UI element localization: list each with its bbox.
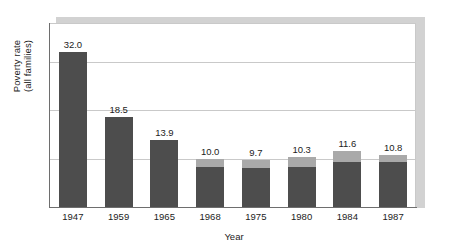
bar-value-label-1947: 32.0 [47,39,99,50]
bar-cap-1984 [333,151,361,162]
x-tick-label-1975: 1975 [233,211,279,222]
x-tick-label-1984: 1984 [325,211,371,222]
bar-group[interactable]: 32.0 [59,23,87,207]
bar-value-label-1975: 9.7 [230,147,282,158]
bar-value-label-1984: 11.6 [321,138,373,149]
bar-group[interactable]: 13.9 [150,23,178,207]
x-tick-label-1968: 1968 [187,211,233,222]
bar-group[interactable]: 10.3 [288,23,316,207]
x-tick-label-1987: 1987 [370,211,416,222]
bar-cap-1980 [288,157,316,167]
bar-cap-1968 [196,159,224,168]
bar-value-label-1968: 10.0 [184,146,236,157]
x-tick-label-1965: 1965 [142,211,188,222]
bar-1947[interactable] [59,52,87,207]
bar-group[interactable]: 18.5 [105,23,133,207]
x-tick-label-1980: 1980 [279,211,325,222]
bar-value-label-1965: 13.9 [138,127,190,138]
bar-value-label-1987: 10.8 [367,142,419,153]
bar-value-label-1959: 18.5 [93,104,145,115]
bar-1987[interactable] [379,155,407,207]
bar-group[interactable]: 10.0 [196,23,224,207]
bar-1959[interactable] [105,117,133,207]
bar-series: 32.018.513.910.09.710.311.610.8 [50,23,416,207]
chart-root: Poverty rate (all families) 32.018.513.9… [0,0,468,252]
bar-cap-1987 [379,155,407,163]
y-axis-title-line1: Poverty rate [11,6,22,126]
x-axis-title: Year [0,231,468,242]
bar-1965[interactable] [150,140,178,207]
x-tick-label-1947: 1947 [50,211,96,222]
bar-group[interactable]: 9.7 [242,23,270,207]
bar-group[interactable]: 11.6 [333,23,361,207]
x-axis-tick-labels: 19471959196519681975198019841987 [50,211,416,227]
bar-cap-1975 [242,160,270,168]
plot-shadow-right [416,17,425,208]
bar-value-label-1980: 10.3 [276,144,328,155]
y-axis-title-line2: (all families) [22,6,33,126]
bar-group[interactable]: 10.8 [379,23,407,207]
y-axis-title: Poverty rate (all families) [11,6,33,126]
x-tick-label-1959: 1959 [96,211,142,222]
x-axis-line [49,207,417,208]
